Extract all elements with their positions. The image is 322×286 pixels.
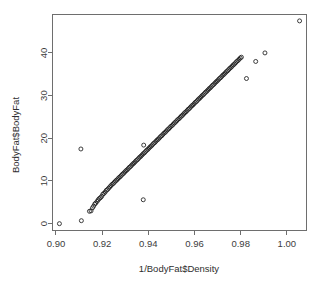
plot-border bbox=[53, 15, 307, 231]
x-tick-label: 1.00 bbox=[278, 238, 297, 249]
x-tick-label: 0.96 bbox=[185, 238, 204, 249]
x-tick-label: 0.92 bbox=[93, 238, 112, 249]
data-point bbox=[57, 222, 61, 226]
y-axis-tick-labels: 010203040 bbox=[38, 48, 49, 227]
x-tick-label: 0.98 bbox=[231, 238, 250, 249]
data-point bbox=[298, 19, 302, 23]
r-scatter-plot-figure: 0.900.920.940.960.981.00 010203040 1/Bod… bbox=[0, 0, 322, 286]
y-axis-title: BodyFat$BodyFat bbox=[10, 97, 21, 173]
y-tick-label: 40 bbox=[38, 48, 49, 59]
data-point bbox=[263, 51, 267, 55]
data-point bbox=[79, 219, 83, 223]
y-tick-label: 10 bbox=[38, 176, 49, 187]
x-axis-ticks bbox=[56, 231, 287, 236]
y-tick-label: 0 bbox=[38, 221, 49, 226]
data-point bbox=[254, 59, 258, 63]
data-point bbox=[141, 198, 145, 202]
y-tick-label: 30 bbox=[38, 90, 49, 101]
plot-canvas: 0.900.920.940.960.981.00 010203040 1/Bod… bbox=[0, 0, 322, 286]
data-point bbox=[244, 77, 248, 81]
y-tick-label: 20 bbox=[38, 133, 49, 144]
x-axis-tick-labels: 0.900.920.940.960.981.00 bbox=[47, 238, 296, 249]
data-point bbox=[142, 143, 146, 147]
data-point-layer bbox=[57, 19, 301, 226]
data-point bbox=[79, 147, 83, 151]
x-axis-title: 1/BodyFat$Density bbox=[139, 263, 220, 274]
x-tick-label: 0.94 bbox=[139, 238, 158, 249]
plot-frame bbox=[53, 15, 307, 231]
x-tick-label: 0.90 bbox=[47, 238, 66, 249]
